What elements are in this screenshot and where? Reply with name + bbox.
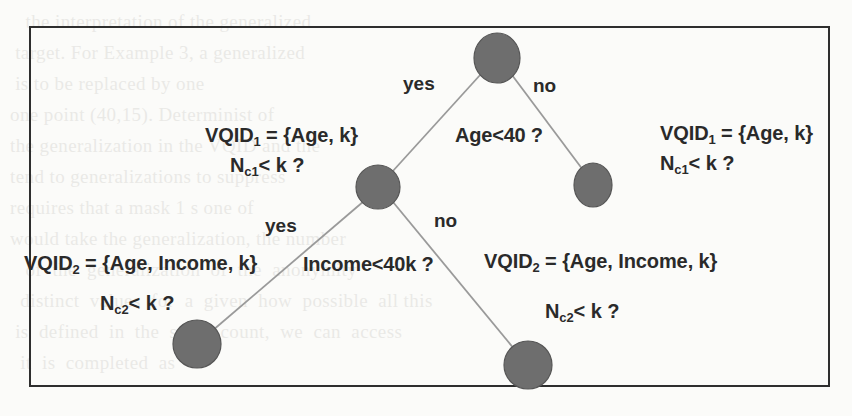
edge-label-root-no: no xyxy=(533,75,556,97)
edge-label-level2-no: no xyxy=(434,210,457,232)
vqid2-left-subscript: 2 xyxy=(73,262,80,277)
vqid2-left-body: = {Age, Income, k} xyxy=(80,252,258,274)
vqid1-right-prefix: VQID xyxy=(660,122,709,144)
nc1-left-prefix: N xyxy=(230,154,244,176)
vqid2-left-prefix: VQID xyxy=(24,252,73,274)
nc2-right-subscript: c2 xyxy=(559,310,573,325)
vqid2-right-subscript: 2 xyxy=(533,260,540,275)
node-right-child xyxy=(574,163,612,207)
nc1-left-subscript: c1 xyxy=(244,164,258,179)
vqid2-right-prefix: VQID xyxy=(484,250,533,272)
annotation-nc2-left: Nc2< k ? xyxy=(100,292,174,315)
nc1-left-body: < k ? xyxy=(259,154,305,176)
edge-label-root-yes: yes xyxy=(403,73,435,95)
vqid1-right-subscript: 1 xyxy=(709,132,716,147)
annotation-vqid1-right: VQID1 = {Age, k} xyxy=(660,122,813,145)
node-leaf-right xyxy=(504,341,552,389)
edge-label-level2-yes: yes xyxy=(265,215,297,237)
annotation-nc2-right: Nc2< k ? xyxy=(545,300,619,323)
nc2-right-prefix: N xyxy=(545,300,559,322)
annotation-nc1-right: Nc1< k ? xyxy=(660,152,734,175)
annotation-vqid1-left: VQID1 = {Age, k} xyxy=(205,124,358,147)
vqid1-left-prefix: VQID xyxy=(205,124,254,146)
vqid1-right-body: = {Age, k} xyxy=(716,122,813,144)
node-root xyxy=(474,33,520,83)
vqid1-left-subscript: 1 xyxy=(254,134,261,149)
nc1-right-prefix: N xyxy=(660,152,674,174)
annotation-vqid2-left: VQID2 = {Age, Income, k} xyxy=(24,252,257,275)
decision-tree xyxy=(0,0,852,416)
annotation-nc1-left: Nc1< k ? xyxy=(230,154,304,177)
annotation-vqid2-right: VQID2 = {Age, Income, k} xyxy=(484,250,717,273)
figure-page: the interpretation of the generalized ta… xyxy=(0,0,852,416)
nc2-right-body: < k ? xyxy=(574,300,620,322)
condition-level2: Income<40k ? xyxy=(303,253,433,276)
node-left-child xyxy=(356,165,400,209)
nc1-right-subscript: c1 xyxy=(674,162,688,177)
vqid1-left-body: = {Age, k} xyxy=(261,124,358,146)
condition-root: Age<40 ? xyxy=(455,124,543,147)
tree-edges xyxy=(212,74,583,350)
nc2-left-subscript: c2 xyxy=(114,302,128,317)
nc2-left-body: < k ? xyxy=(129,292,175,314)
node-leaf-left xyxy=(173,320,221,368)
nc2-left-prefix: N xyxy=(100,292,114,314)
vqid2-right-body: = {Age, Income, k} xyxy=(540,250,718,272)
nc1-right-body: < k ? xyxy=(689,152,735,174)
